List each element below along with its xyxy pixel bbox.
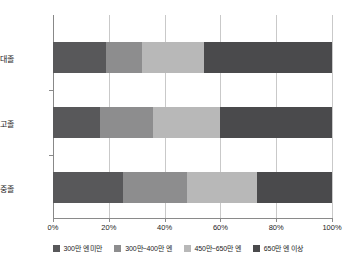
y-axis-tick bbox=[49, 90, 53, 91]
bar-segment bbox=[53, 107, 100, 138]
gridline bbox=[332, 15, 333, 218]
legend-swatch-icon bbox=[253, 245, 260, 252]
bar-segment bbox=[204, 42, 332, 73]
x-axis-tick bbox=[165, 218, 166, 222]
bar-segment bbox=[106, 42, 142, 73]
category-label-text: 父・고졸 bbox=[0, 118, 14, 129]
x-axis-tick bbox=[220, 218, 221, 222]
bar-segment bbox=[123, 172, 187, 203]
x-axis-tick bbox=[109, 218, 110, 222]
x-axis-tick-label: 100% bbox=[322, 223, 341, 232]
stacked-bar-chart: 父・대졸父・고졸父・중졸 0%20%40%60%80%100% 300만 엔 미… bbox=[0, 0, 355, 267]
bar-segment bbox=[153, 107, 220, 138]
y-axis-tick bbox=[49, 155, 53, 156]
x-axis-tick-label: 20% bbox=[101, 223, 116, 232]
x-axis-tick bbox=[332, 218, 333, 222]
legend-swatch-icon bbox=[114, 245, 121, 252]
plot-area bbox=[53, 15, 332, 218]
legend-item-label: 650만 엔 이상 bbox=[264, 243, 303, 253]
x-axis-line bbox=[53, 218, 333, 219]
category-label-text: 父・대졸 bbox=[0, 53, 14, 64]
x-axis-tick-label: 0% bbox=[48, 223, 59, 232]
legend-item[interactable]: 650만 엔 이상 bbox=[253, 243, 303, 253]
x-axis-tick bbox=[53, 218, 54, 222]
legend-item[interactable]: 300만 엔 미만 bbox=[53, 243, 103, 253]
x-axis-tick-label: 40% bbox=[157, 223, 172, 232]
legend-item-label: 450만~650만 엔 bbox=[195, 243, 241, 253]
legend-swatch-icon bbox=[53, 245, 60, 252]
legend-item-label: 300만 엔 미만 bbox=[64, 243, 103, 253]
bar-row bbox=[53, 172, 332, 203]
bar-segment bbox=[220, 107, 332, 138]
bar-row bbox=[53, 107, 332, 138]
legend: 300만 엔 미만300만~400만 엔450만~650만 엔650만 엔 이상 bbox=[0, 243, 355, 253]
bar-segment bbox=[53, 42, 106, 73]
bar-segment bbox=[257, 172, 332, 203]
bar-segment bbox=[142, 42, 203, 73]
legend-swatch-icon bbox=[184, 245, 191, 252]
legend-item-label: 300만~400만 엔 bbox=[125, 243, 171, 253]
bar-segment bbox=[187, 172, 257, 203]
x-axis-tick-label: 80% bbox=[269, 223, 284, 232]
bar-segment bbox=[100, 107, 153, 138]
bar-row bbox=[53, 42, 332, 73]
category-label-text: 父・중졸 bbox=[0, 183, 14, 194]
legend-item[interactable]: 300만~400만 엔 bbox=[114, 243, 171, 253]
x-axis-tick-label: 60% bbox=[213, 223, 228, 232]
bar-segment bbox=[53, 172, 123, 203]
x-axis-tick bbox=[276, 218, 277, 222]
legend-item[interactable]: 450만~650만 엔 bbox=[184, 243, 241, 253]
